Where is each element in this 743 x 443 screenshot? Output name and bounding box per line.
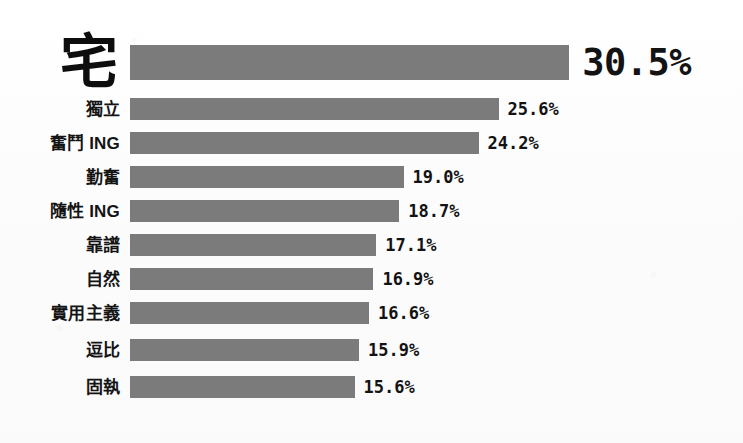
- horizontal-bar-chart: 宅 30.5% 獨立 25.6% 奮鬥 ING 24.2% 勤奮 19.0% 隨…: [0, 0, 743, 443]
- bar-value-label: 16.9%: [382, 271, 433, 288]
- chart-row: 逗比 15.9%: [0, 339, 743, 361]
- bar-label: 靠譜: [0, 237, 130, 254]
- chart-row: 勤奮 19.0%: [0, 166, 743, 188]
- bar-value-label: 25.6%: [508, 101, 559, 118]
- chart-row: 獨立 25.6%: [0, 98, 743, 120]
- chart-row: 奮鬥 ING 24.2%: [0, 132, 743, 154]
- chart-row: 自然 16.9%: [0, 268, 743, 290]
- bar-label: 隨性 ING: [0, 203, 130, 220]
- bar: [130, 234, 376, 256]
- bar: [130, 339, 359, 361]
- bar-label: 勤奮: [0, 169, 130, 186]
- chart-row: 靠譜 17.1%: [0, 234, 743, 256]
- bar-label: 宅: [0, 33, 130, 91]
- bar-label: 獨立: [0, 101, 130, 118]
- bar-label: 逗比: [0, 342, 130, 359]
- bar-value-label: 24.2%: [488, 135, 539, 152]
- chart-row-hero: 宅 30.5%: [0, 28, 743, 96]
- bar-label: 奮鬥 ING: [0, 135, 130, 152]
- bar-label: 自然: [0, 271, 130, 288]
- bar-label: 實用主義: [0, 305, 130, 322]
- bar-value-label: 19.0%: [413, 169, 464, 186]
- bar-value-label: 15.6%: [364, 379, 415, 396]
- bar: [130, 268, 373, 290]
- bar: [130, 376, 355, 398]
- bar: [130, 98, 499, 120]
- bar-value-label: 17.1%: [385, 237, 436, 254]
- bar-value-label: 30.5%: [582, 44, 691, 81]
- bar-value-label: 16.6%: [378, 305, 429, 322]
- bar-label: 固執: [0, 379, 130, 396]
- bar-value-label: 18.7%: [408, 203, 459, 220]
- bar: [130, 132, 479, 154]
- chart-row: 實用主義 16.6%: [0, 302, 743, 324]
- bar: [130, 200, 399, 222]
- bar: [130, 45, 569, 80]
- chart-row: 固執 15.6%: [0, 376, 743, 398]
- chart-row: 隨性 ING 18.7%: [0, 200, 743, 222]
- bar-value-label: 15.9%: [368, 342, 419, 359]
- bar: [130, 166, 404, 188]
- bar: [130, 302, 369, 324]
